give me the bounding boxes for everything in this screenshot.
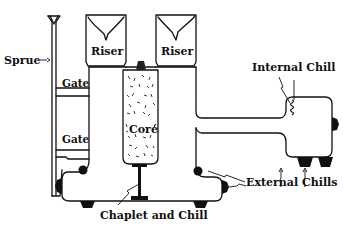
casting-mold-diagram: Sprue Gate Gate Riser Riser Coré Interna… xyxy=(0,0,343,231)
sprue-channel xyxy=(48,16,60,196)
riser-right-label: Riser xyxy=(161,45,194,58)
external-chill-right-ball xyxy=(194,167,203,176)
core-print xyxy=(136,61,146,70)
sprue-label: Sprue xyxy=(4,54,40,67)
chaplet-and-chill-shape xyxy=(131,164,148,200)
external-chills-label: External Chills xyxy=(246,176,337,189)
core-speckles xyxy=(126,75,155,157)
external-chill-bottom-right xyxy=(193,201,208,208)
internal-chill-coil xyxy=(291,100,294,115)
external-chill-arm-end xyxy=(332,117,339,131)
external-chill-right-block xyxy=(222,180,229,194)
sprue-arrow xyxy=(47,58,50,62)
external-chill-leader-2 xyxy=(229,184,246,187)
riser-left-label: Riser xyxy=(91,45,124,58)
chaplet-leader xyxy=(118,184,139,205)
riser-left-box xyxy=(86,15,126,66)
gate-upper-label: Gate xyxy=(62,77,90,89)
chaplet-and-chill-label: Chaplet and Chill xyxy=(100,209,208,222)
internal-chill-label: Internal Chill xyxy=(252,61,335,74)
external-chill-bottom-left xyxy=(80,201,95,208)
gate-lower-label: Gate xyxy=(62,133,90,145)
external-chill-left-ball xyxy=(79,166,88,175)
external-chill-arm-bottom-1 xyxy=(297,157,313,167)
internal-chill-leader-squiggle xyxy=(279,77,290,103)
core-label: Coré xyxy=(129,123,158,136)
external-chill-arm-bottom-2 xyxy=(318,157,333,167)
riser-right-box xyxy=(156,15,196,66)
